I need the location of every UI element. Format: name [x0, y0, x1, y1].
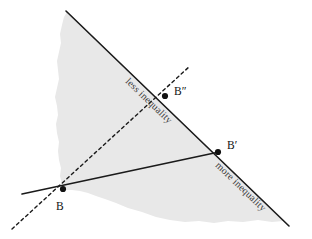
point-b-prime-label: B′ — [227, 139, 237, 151]
point-b-double-prime-marker — [162, 93, 168, 99]
point-b-prime-marker — [215, 149, 221, 155]
point-b-marker — [60, 186, 66, 192]
figure-root: B B′ B″ less inequality more inequality — [0, 0, 312, 239]
point-b-label: B — [56, 200, 64, 212]
point-b-double-prime-label: B″ — [174, 85, 187, 97]
inequality-diagram: B B′ B″ less inequality more inequality — [0, 0, 312, 239]
